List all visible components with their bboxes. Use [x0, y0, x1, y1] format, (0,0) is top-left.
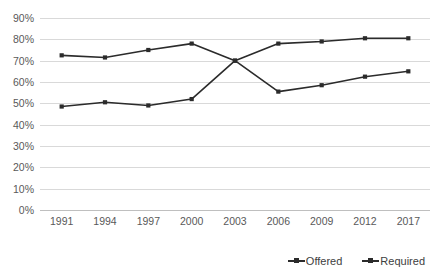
line-chart: 90%80%70%60%50%40%30%20%10%0% 1991199419…	[0, 0, 439, 277]
data-point-marker	[276, 42, 280, 46]
data-point-marker	[406, 36, 410, 40]
x-axis-tick-label: 2003	[223, 215, 246, 227]
data-point-marker	[60, 104, 64, 108]
data-point-marker	[146, 103, 150, 107]
x-axis-tick-label: 1994	[93, 215, 116, 227]
x-axis-tick-label: 2012	[353, 215, 376, 227]
y-axis-tick-label: 50%	[13, 97, 34, 109]
series-layer	[40, 18, 430, 210]
y-axis-tick-label: 70%	[13, 55, 34, 67]
legend-item-required[interactable]: Required	[362, 255, 425, 267]
data-point-marker	[406, 69, 410, 73]
gridline	[40, 210, 430, 211]
data-point-marker	[320, 39, 324, 43]
chart-legend: Offered Required	[0, 250, 439, 272]
y-axis-tick-label: 0%	[19, 204, 34, 216]
data-point-marker	[320, 83, 324, 87]
plot-area	[40, 18, 430, 210]
data-point-marker	[60, 53, 64, 57]
legend-marker-icon	[288, 256, 305, 266]
data-point-marker	[276, 90, 280, 94]
data-point-marker	[190, 42, 194, 46]
y-axis-tick-label: 30%	[13, 140, 34, 152]
data-point-marker	[233, 59, 237, 63]
y-axis-tick-label: 40%	[13, 119, 34, 131]
series-line-required	[62, 61, 409, 107]
y-axis-tick-label: 20%	[13, 161, 34, 173]
legend-label: Required	[380, 255, 425, 267]
data-point-marker	[363, 36, 367, 40]
data-point-marker	[146, 48, 150, 52]
legend-item-offered[interactable]: Offered	[288, 255, 343, 267]
legend-label: Offered	[306, 255, 343, 267]
x-axis-tick-labels: 199119941997200020032006200920122017	[40, 213, 430, 233]
data-point-marker	[103, 100, 107, 104]
x-axis-tick-label: 2000	[180, 215, 203, 227]
y-axis-tick-labels: 90%80%70%60%50%40%30%20%10%0%	[0, 0, 40, 277]
y-axis-tick-label: 10%	[13, 183, 34, 195]
x-axis-tick-label: 2006	[267, 215, 290, 227]
x-axis-tick-label: 2017	[397, 215, 420, 227]
y-axis-tick-label: 60%	[13, 76, 34, 88]
y-axis-tick-label: 80%	[13, 33, 34, 45]
legend-marker-icon	[362, 256, 379, 266]
y-axis-tick-label: 90%	[13, 12, 34, 24]
data-point-marker	[190, 97, 194, 101]
x-axis-tick-label: 2009	[310, 215, 333, 227]
data-point-marker	[363, 75, 367, 79]
x-axis-tick-label: 1991	[50, 215, 73, 227]
x-axis-tick-label: 1997	[137, 215, 160, 227]
series-line-offered	[62, 38, 409, 60]
data-point-marker	[103, 55, 107, 59]
